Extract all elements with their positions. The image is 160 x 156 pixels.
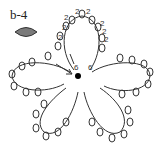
- center-dot: [75, 73, 81, 79]
- svg-text:2: 2: [58, 33, 63, 42]
- svg-text:2: 2: [100, 19, 105, 28]
- petal-bottom-right: [84, 88, 124, 133]
- svg-text:2: 2: [86, 7, 91, 16]
- picots-bottom-left: [33, 100, 69, 140]
- picots-bottom-right: [89, 106, 133, 142]
- center-label-left: 6: [74, 63, 79, 72]
- svg-text:2: 2: [62, 23, 67, 32]
- petal-bottom-left: [40, 88, 78, 133]
- svg-text:2: 2: [75, 7, 80, 16]
- svg-text:2: 2: [104, 35, 109, 44]
- top-petal-labels: 2 2 2 2 2 2 2 2: [58, 7, 109, 44]
- picots-right: [117, 54, 153, 98]
- tatting-flower-diagram: 2 2 2 2 2 2 2 2 6 6: [0, 0, 160, 156]
- center-label-right: 6: [88, 63, 93, 72]
- petal-top: [64, 16, 99, 70]
- svg-text:2: 2: [64, 13, 69, 22]
